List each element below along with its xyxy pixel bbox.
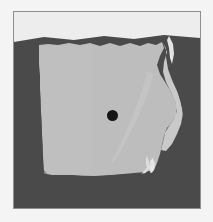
map-alt-text: Grayscale map of Egypt with a black dot … [0,0,1,1]
map-frame [13,11,201,209]
map-title: Egypt [0,0,1,1]
western-desert-shade [40,46,92,174]
legend-sea-label: Mediterranean Sea [0,0,1,1]
southern-land-region [14,172,200,208]
legend-marker-label: Cairo [0,0,1,1]
legend-water-label: Nile / Lake Nasser [0,0,1,1]
map-figure: Grayscale map of Egypt with a black dot … [0,0,213,222]
legend-land-label: Land (Egypt) [0,0,1,1]
map-canvas [14,12,200,208]
legend-surrounding-label: Surrounding territory / sea [0,0,1,1]
